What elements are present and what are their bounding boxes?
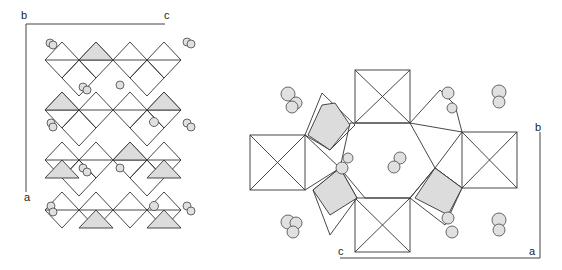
axis-label-a-left: a bbox=[24, 191, 30, 203]
left-panel: b c a bbox=[0, 0, 230, 270]
axis-label-c-left: c bbox=[164, 9, 170, 21]
right-structure-drawing bbox=[240, 0, 562, 270]
left-structure-drawing bbox=[0, 0, 230, 270]
axis-label-a-right: a bbox=[529, 245, 535, 257]
axis-label-b-left: b bbox=[21, 9, 27, 21]
axis-label-c-right: c bbox=[338, 245, 344, 257]
right-panel: b c a bbox=[240, 0, 562, 270]
axis-label-b-right: b bbox=[535, 121, 541, 133]
